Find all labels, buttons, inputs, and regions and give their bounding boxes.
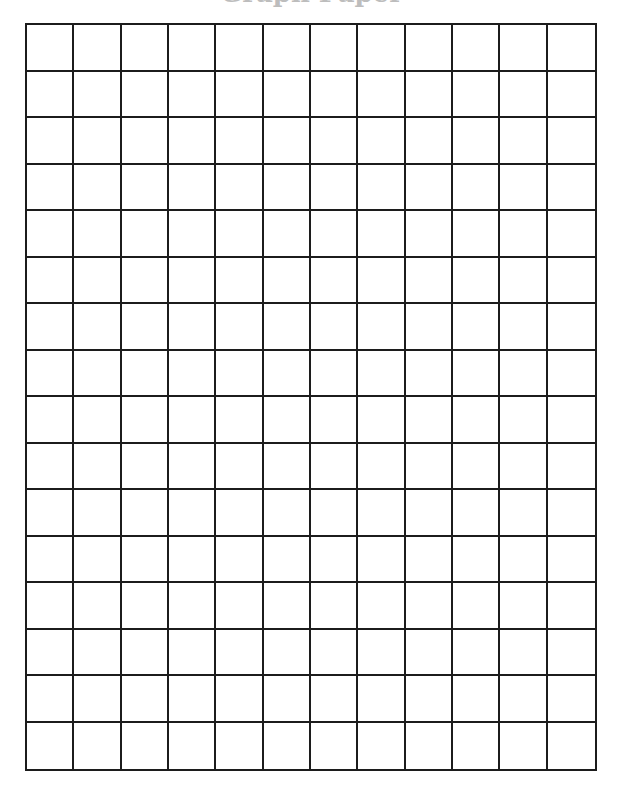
grid-cell bbox=[122, 25, 169, 72]
grid-cell bbox=[264, 676, 311, 723]
grid-cell bbox=[406, 165, 453, 212]
grid-cell bbox=[453, 397, 500, 444]
grid-cell bbox=[453, 630, 500, 677]
grid-cell bbox=[264, 72, 311, 119]
grid-cell bbox=[548, 444, 595, 491]
grid-cell bbox=[216, 723, 263, 770]
grid-cell bbox=[453, 165, 500, 212]
grid-cell bbox=[122, 630, 169, 677]
grid-cell bbox=[74, 304, 121, 351]
grid-cell bbox=[169, 490, 216, 537]
grid-cell bbox=[216, 118, 263, 165]
grid-cell bbox=[453, 444, 500, 491]
grid-cell bbox=[216, 397, 263, 444]
grid-cell bbox=[74, 537, 121, 584]
grid-cell bbox=[122, 397, 169, 444]
grid-cell bbox=[122, 258, 169, 305]
grid-cell bbox=[169, 444, 216, 491]
grid-cell bbox=[453, 351, 500, 398]
grid-cell bbox=[500, 676, 547, 723]
grid-cell bbox=[358, 630, 405, 677]
grid-cell bbox=[122, 211, 169, 258]
grid-cell bbox=[74, 351, 121, 398]
grid-cell bbox=[406, 72, 453, 119]
grid-cell bbox=[122, 490, 169, 537]
grid-cell bbox=[500, 304, 547, 351]
grid-cell bbox=[27, 490, 74, 537]
grid-cell bbox=[169, 304, 216, 351]
grid-cell bbox=[311, 118, 358, 165]
grid-cell bbox=[406, 304, 453, 351]
grid-cell bbox=[500, 583, 547, 630]
grid-cell bbox=[122, 723, 169, 770]
grid-cell bbox=[548, 165, 595, 212]
grid-cell bbox=[74, 72, 121, 119]
grid-cell bbox=[358, 304, 405, 351]
grid-cell bbox=[358, 258, 405, 305]
grid-cell bbox=[311, 444, 358, 491]
grid-cell bbox=[74, 490, 121, 537]
grid-cell bbox=[27, 723, 74, 770]
grid-cell bbox=[74, 676, 121, 723]
grid-cell bbox=[122, 304, 169, 351]
grid-cell bbox=[216, 258, 263, 305]
grid-cell bbox=[358, 211, 405, 258]
grid-cell bbox=[27, 25, 74, 72]
grid-cell bbox=[500, 72, 547, 119]
grid-cell bbox=[264, 258, 311, 305]
grid-cell bbox=[358, 676, 405, 723]
grid-cell bbox=[358, 537, 405, 584]
grid-cell bbox=[74, 397, 121, 444]
grid-cell bbox=[311, 723, 358, 770]
grid-cell bbox=[169, 630, 216, 677]
grid-cell bbox=[406, 583, 453, 630]
grid-cell bbox=[311, 630, 358, 677]
grid-cell bbox=[500, 351, 547, 398]
grid-cell bbox=[169, 351, 216, 398]
grid-cell bbox=[27, 676, 74, 723]
grid-cell bbox=[169, 676, 216, 723]
grid-cell bbox=[453, 72, 500, 119]
grid-cell bbox=[74, 583, 121, 630]
grid-cell bbox=[406, 118, 453, 165]
grid-cell bbox=[264, 211, 311, 258]
grid-cell bbox=[74, 118, 121, 165]
grid-cell bbox=[311, 351, 358, 398]
grid-cell bbox=[358, 583, 405, 630]
grid-cell bbox=[453, 583, 500, 630]
grid-cell bbox=[169, 723, 216, 770]
grid-cell bbox=[548, 72, 595, 119]
grid-cell bbox=[358, 397, 405, 444]
grid-cell bbox=[406, 258, 453, 305]
grid-cell bbox=[406, 630, 453, 677]
grid-cell bbox=[406, 444, 453, 491]
grid-cell bbox=[311, 490, 358, 537]
grid-cell bbox=[264, 351, 311, 398]
grid-cell bbox=[216, 351, 263, 398]
grid-cell bbox=[548, 258, 595, 305]
grid-cell bbox=[500, 444, 547, 491]
grid-cell bbox=[500, 258, 547, 305]
grid-cell bbox=[548, 211, 595, 258]
grid-cell bbox=[169, 583, 216, 630]
grid-cell bbox=[500, 723, 547, 770]
grid-cell bbox=[27, 537, 74, 584]
grid-cell bbox=[548, 351, 595, 398]
grid-cell bbox=[169, 72, 216, 119]
grid-cell bbox=[169, 211, 216, 258]
grid-cell bbox=[216, 490, 263, 537]
grid-cell bbox=[74, 444, 121, 491]
grid-cell bbox=[27, 630, 74, 677]
grid-cell bbox=[216, 630, 263, 677]
grid-cell bbox=[406, 676, 453, 723]
grid-cell bbox=[74, 630, 121, 677]
grid-cell bbox=[216, 304, 263, 351]
grid-cell bbox=[74, 165, 121, 212]
grid-cell bbox=[122, 676, 169, 723]
grid-cell bbox=[27, 304, 74, 351]
graph-paper-grid bbox=[25, 23, 597, 771]
grid-cell bbox=[264, 444, 311, 491]
grid-cell bbox=[453, 258, 500, 305]
grid-cell bbox=[406, 25, 453, 72]
grid-cell bbox=[548, 490, 595, 537]
